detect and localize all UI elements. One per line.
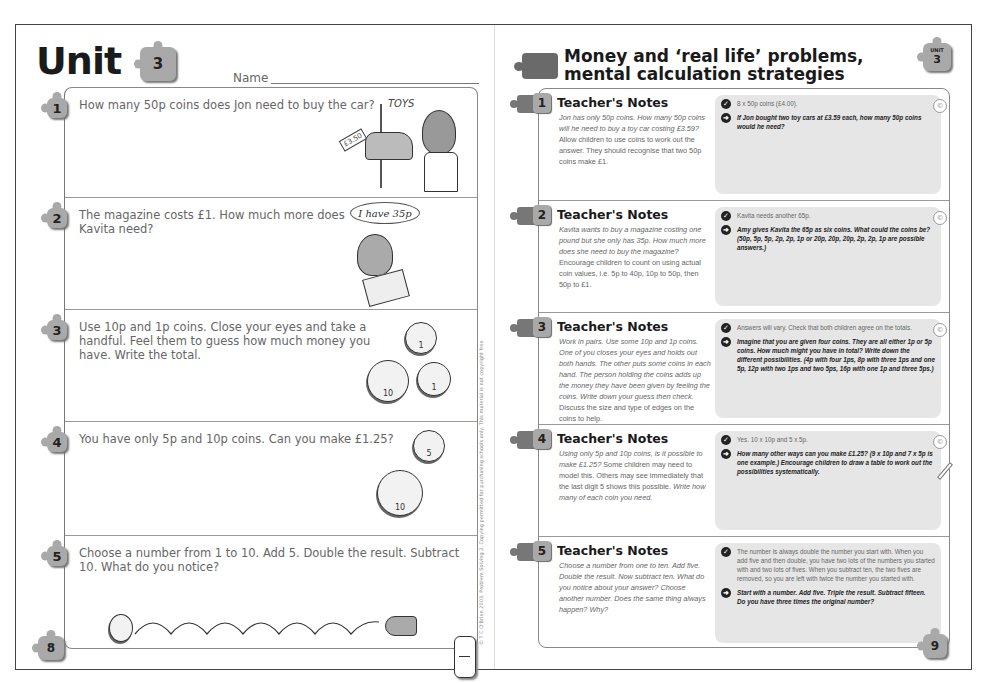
answer: ✓Answers will vary. Check that both chil… xyxy=(737,323,935,332)
notes-row: 4 Teacher's Notes Using only 5p and 10p … xyxy=(539,425,949,537)
answer: ✓Kavita needs another 65p. xyxy=(737,211,935,220)
question-row: 5 Choose a number from 1 to 10. Add 5. D… xyxy=(65,536,477,650)
check-circle-icon: ✓ xyxy=(721,547,731,557)
cd-icon: © xyxy=(933,435,947,449)
pencil-icon xyxy=(937,462,953,480)
extension-activity: ➜Amy gives Kavita the 65p as six coins. … xyxy=(737,225,935,252)
notes-row: 1 Teacher's Notes Jon has only 50p coins… xyxy=(539,89,949,201)
question-number-puzzle-icon: 3 xyxy=(47,320,67,340)
unit-puzzle-icon: 3 xyxy=(140,47,176,81)
question-row: 1 How many 50p coins does Jon need to bu… xyxy=(65,88,477,198)
questions-frame: 1 How many 50p coins does Jon need to bu… xyxy=(64,87,478,649)
extension-activity: ➜Start with a number. Add five. Triple t… xyxy=(737,588,935,606)
notes-heading: Teacher's Notes xyxy=(557,431,668,446)
name-label: Name xyxy=(233,71,268,85)
notes-heading: Teacher's Notes xyxy=(557,207,668,222)
answers-panel: ✓Answers will vary. Check that both chil… xyxy=(715,319,941,418)
boy-toy-car-illustration: TOYS £3.50 xyxy=(340,92,470,194)
title-puzzle-icon xyxy=(522,53,558,79)
name-field[interactable] xyxy=(271,83,479,84)
notes-heading: Teacher's Notes xyxy=(557,319,668,334)
question-number-puzzle-icon: 1 xyxy=(47,98,67,118)
answer: ✓8 x 50p coins (£4.00). xyxy=(737,99,935,108)
question-number-puzzle-icon: 4 xyxy=(47,432,67,452)
extension-activity: ➜If Jon bought two toy cars at £3.59 eac… xyxy=(737,113,935,131)
book-spread: Unit 3 Name 1 How many 50p coins does Jo… xyxy=(15,24,972,670)
notes-body: Work in pairs. Use some 10p and 1p coins… xyxy=(559,336,711,424)
answers-panel: ✓8 x 50p coins (£4.00). ➜If Jon bought t… xyxy=(715,95,941,194)
bouncing-path-icon xyxy=(133,610,383,640)
cd-icon: © xyxy=(933,211,947,225)
question-text: Use 10p and 1p coins. Close your eyes an… xyxy=(79,320,379,362)
notes-body: Choose a number from one to ten. Add fiv… xyxy=(559,560,711,615)
page-title: Money and ‘real life’ problems, mental c… xyxy=(564,47,863,83)
notes-heading: Teacher's Notes xyxy=(557,543,668,558)
question-text: Choose a number from 1 to 10. Add 5. Dou… xyxy=(79,546,474,574)
notes-row: 5 Teacher's Notes Choose a number from o… xyxy=(539,537,949,649)
hand-icon xyxy=(385,616,417,636)
notes-number: 4 xyxy=(533,429,551,449)
check-circle-icon: ✓ xyxy=(721,323,731,333)
page-number-puzzle: 9 xyxy=(923,634,947,658)
notes-heading: Teacher's Notes xyxy=(557,95,668,110)
check-circle-icon: ✓ xyxy=(721,435,731,445)
extension-activity: ➜How many other ways can you make £1.25?… xyxy=(737,449,935,476)
question-text: The magazine costs £1. How much more doe… xyxy=(79,208,349,236)
answers-panel: ✓Kavita needs another 65p. ➜Amy gives Ka… xyxy=(715,207,941,306)
unit-title: Unit xyxy=(36,39,121,83)
notes-body: Using only 5p and 10p coins, is it possi… xyxy=(559,448,711,503)
check-circle-icon: ✓ xyxy=(721,99,731,109)
answer: ✓Yes. 10 x 10p and 5 x 5p. xyxy=(737,435,935,444)
question-row: 2 The magazine costs £1. How much more d… xyxy=(65,198,477,310)
notes-row: 2 Teacher's Notes Kavita wants to buy a … xyxy=(539,201,949,313)
boy-head-icon xyxy=(422,110,456,154)
arrow-circle-icon: ➜ xyxy=(721,113,731,123)
girl-head-icon xyxy=(357,234,393,276)
5p-coin-icon: 5 xyxy=(413,430,445,462)
worksheet-page: Unit 3 Name 1 How many 50p coins does Jo… xyxy=(16,25,494,669)
toy-car-icon xyxy=(365,132,413,160)
price-tag: £3.50 xyxy=(339,128,368,151)
arrow-circle-icon: ➜ xyxy=(721,588,731,598)
question-text: You have only 5p and 10p coins. Can you … xyxy=(79,432,394,446)
speech-bubble: I have 35p xyxy=(350,202,420,224)
notes-number: 5 xyxy=(533,541,551,561)
notes-number: 3 xyxy=(533,317,551,337)
answer: ✓The number is always double the number … xyxy=(737,547,935,583)
1p-coin-icon: 1 xyxy=(405,322,437,354)
unit-badge-puzzle-icon: UNIT 3 xyxy=(923,43,951,71)
notes-number: 2 xyxy=(533,205,551,225)
notes-number: 1 xyxy=(533,93,551,113)
cd-icon: © xyxy=(933,323,947,337)
arrow-circle-icon: ➜ xyxy=(721,449,731,459)
coin-icon xyxy=(109,614,133,642)
page-number-puzzle: 8 xyxy=(38,636,64,660)
10p-coin-icon: 10 xyxy=(367,360,409,402)
cd-icon: © xyxy=(933,99,947,113)
question-number-puzzle-icon: 5 xyxy=(47,546,67,566)
1p-coin-icon: 1 xyxy=(417,362,451,396)
notes-body: Jon has only 50p coins. How many 50p coi… xyxy=(559,112,711,167)
notes-row: 3 Teacher's Notes Work in pairs. Use som… xyxy=(539,313,949,425)
question-row: 3 Use 10p and 1p coins. Close your eyes … xyxy=(65,310,477,422)
arrow-circle-icon: ➜ xyxy=(721,225,731,235)
teachers-notes-page: Money and ‘real life’ problems, mental c… xyxy=(494,25,973,669)
question-row: 4 You have only 5p and 10p coins. Can yo… xyxy=(65,422,477,536)
arrow-circle-icon: ➜ xyxy=(721,337,731,347)
answers-panel: ✓The number is always double the number … xyxy=(715,543,941,643)
question-text: How many 50p coins does Jon need to buy … xyxy=(79,98,375,112)
copyright-notice: © T C O'Brien 2003. Problem Solving 2. C… xyxy=(478,345,484,645)
check-circle-icon: ✓ xyxy=(721,211,731,221)
question-number-puzzle-icon: 2 xyxy=(47,208,67,228)
extension-activity: ➜Imagine that you are given four coins. … xyxy=(737,337,935,373)
notes-frame: 1 Teacher's Notes Jon has only 50p coins… xyxy=(538,88,950,648)
page-tab-minus xyxy=(454,636,476,678)
answers-panel: ✓Yes. 10 x 10p and 5 x 5p. ➜How many oth… xyxy=(715,431,941,530)
10p-coin-icon: 10 xyxy=(377,470,423,516)
notes-body: Kavita wants to buy a magazine costing o… xyxy=(559,224,711,290)
